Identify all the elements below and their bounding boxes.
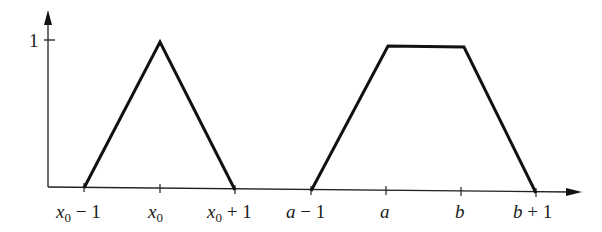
x-label-x0: x0: [147, 201, 163, 225]
x-axis-arrow-icon: [566, 188, 582, 196]
x-label-b-plus-1: b + 1: [513, 201, 552, 222]
x-label-x0-plus-1: x0 + 1: [206, 201, 252, 225]
y-tick-label: 1: [29, 30, 39, 51]
x-label-a-minus-1: a − 1: [286, 201, 325, 222]
x-axis: [48, 187, 570, 192]
x-label-a: a: [380, 201, 390, 222]
triangle-membership: [84, 42, 235, 190]
y-axis-arrow-icon: [44, 10, 52, 25]
x-label-x0-minus-1: x0 − 1: [55, 201, 101, 225]
x-label-b: b: [455, 201, 465, 222]
membership-function-diagram: 1 x0 − 1 x0 x0 + 1 a − 1 a b b + 1: [0, 0, 602, 232]
trapezoid-membership: [311, 46, 536, 193]
